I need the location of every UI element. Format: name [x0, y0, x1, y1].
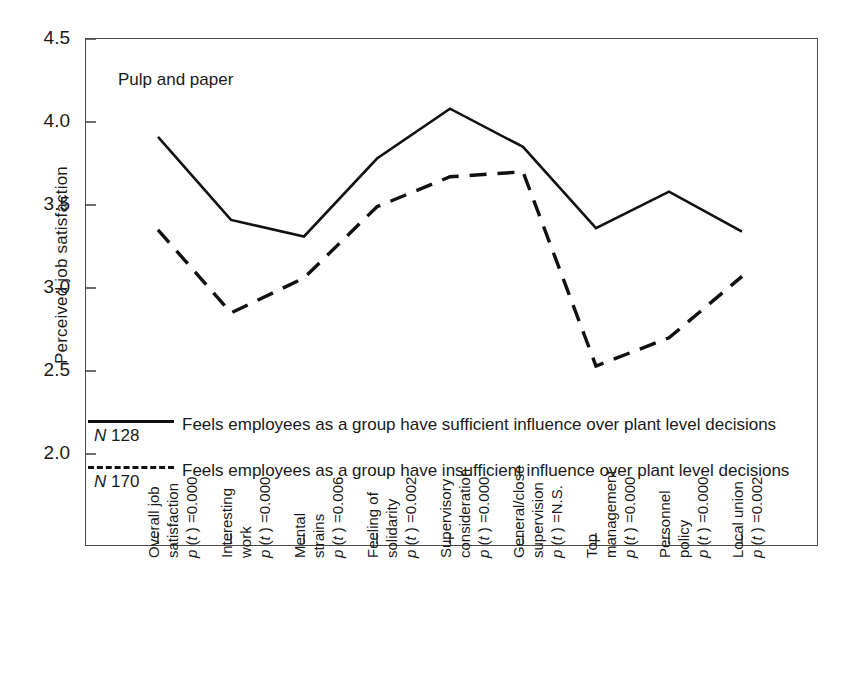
x-label-line1: Personnel — [655, 477, 674, 558]
x-axis-label-5: General/closesupervisionp (t ) =N.S. — [509, 465, 566, 558]
x-label-line2: work — [236, 477, 255, 558]
x-axis-label-4: Supervisoryconsiderationp (t ) =0.000 — [436, 469, 493, 558]
series-line-sufficient — [158, 109, 742, 237]
x-label-line1: Local union — [728, 477, 747, 558]
legend-n-insufficient: N 170 — [94, 472, 139, 492]
x-label-line1: Feeling of — [363, 477, 382, 558]
x-label-pvalue: p (t ) =0.000 — [255, 477, 274, 558]
x-axis-label-1: Interestingworkp (t ) =0.000 — [217, 477, 274, 558]
y-tick-marks — [85, 39, 96, 454]
x-label-pvalue: p (t ) =0.000 — [693, 477, 712, 558]
x-label-line1: Interesting — [217, 477, 236, 558]
x-axis-label-6: Topmanagementp (t ) =0.000 — [582, 470, 639, 558]
x-axis-label-0: Overall jobsatisfactionp (t ) =0.000 — [144, 477, 201, 558]
x-label-pvalue: p (t ) =0.002 — [747, 477, 766, 558]
x-axis-label-8: Local unionp (t ) =0.002 — [728, 477, 766, 558]
x-label-line2: consideration — [455, 469, 474, 558]
y-tick-label-4-5: 4.5 — [18, 27, 70, 49]
x-axis-label-7: Personnelpolicyp (t ) =0.000 — [655, 477, 712, 558]
x-label-line1: Top — [582, 470, 601, 558]
x-label-pvalue: p (t ) =N.S. — [547, 465, 566, 558]
y-tick-label-3-0: 3.0 — [18, 276, 70, 298]
plot-annotation: Pulp and paper — [118, 70, 233, 90]
y-tick-label-2-5: 2.5 — [18, 359, 70, 381]
legend-n-sufficient: N 128 — [94, 426, 139, 446]
legend-text-sufficient: Feels employees as a group have sufficie… — [182, 414, 776, 435]
x-label-pvalue: p (t ) =0.000 — [182, 477, 201, 558]
y-tick-label-3-5: 3.5 — [18, 193, 70, 215]
x-label-pvalue: p (t ) =0.002 — [401, 477, 420, 558]
y-tick-label-2-0: 2.0 — [18, 442, 70, 464]
series-line-insufficient — [158, 172, 742, 366]
x-axis-label-2: Mentalstrainsp (t ) =0.006 — [290, 477, 347, 558]
x-label-line2: policy — [674, 477, 693, 558]
x-label-line2: solidarity — [382, 477, 401, 558]
y-tick-label-4-0: 4.0 — [18, 110, 70, 132]
x-label-pvalue: p (t ) =0.006 — [328, 477, 347, 558]
chart-figure: Perceived job satisfaction 4.5 4.0 3.5 3… — [0, 0, 845, 695]
x-label-line1: Mental — [290, 477, 309, 558]
x-label-line1: General/close — [509, 465, 528, 558]
x-label-line2: management — [601, 470, 620, 558]
x-label-line1: Overall job — [144, 477, 163, 558]
x-label-line2: strains — [309, 477, 328, 558]
x-label-line2: satisfaction — [163, 477, 182, 558]
x-label-line2: supervision — [528, 465, 547, 558]
x-axis-label-3: Feeling ofsolidarityp (t ) =0.002 — [363, 477, 420, 558]
x-label-line1: Supervisory — [436, 469, 455, 558]
x-label-pvalue: p (t ) =0.000 — [620, 470, 639, 558]
x-label-pvalue: p (t ) =0.000 — [474, 469, 493, 558]
